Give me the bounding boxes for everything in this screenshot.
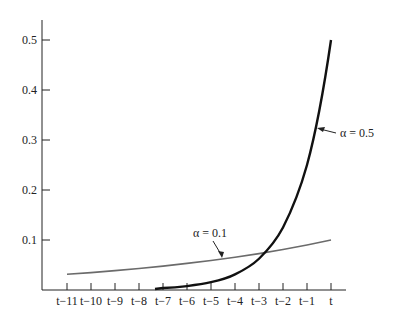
- annotation-alpha-0.1: α = 0.1: [193, 226, 227, 240]
- annotation-alpha-0.5: α = 0.5: [340, 126, 374, 140]
- y-tick-label: 0.1: [22, 233, 37, 247]
- x-tick-label: t−1: [299, 294, 315, 308]
- x-tick-label: t−11: [56, 294, 78, 308]
- y-tick-label: 0.5: [22, 33, 37, 47]
- y-ticks: [42, 40, 50, 240]
- series-alpha-0.5-line: [155, 40, 331, 289]
- arrowhead-alpha-0.1: [218, 251, 224, 258]
- x-tick-label: t: [329, 294, 333, 308]
- x-tick-label: t−3: [251, 294, 267, 308]
- y-tick-label: 0.2: [22, 183, 37, 197]
- x-tick-label: t−8: [131, 294, 147, 308]
- x-tick-label: t−7: [155, 294, 171, 308]
- y-tick-label: 0.4: [22, 83, 37, 97]
- x-tick-label: t−6: [179, 294, 195, 308]
- series-alpha-0.1-line: [67, 240, 331, 274]
- x-tick-label: t−2: [275, 294, 291, 308]
- x-tick-label: t−5: [203, 294, 219, 308]
- y-tick-labels: 0.1 0.2 0.3 0.4 0.5: [22, 33, 37, 247]
- y-tick-label: 0.3: [22, 133, 37, 147]
- x-tick-label: t−10: [80, 294, 102, 308]
- x-tick-label: t−4: [227, 294, 243, 308]
- chart: 0.1 0.2 0.3 0.4 0.5 t−11 t−10 t−9 t−8 t−…: [0, 0, 396, 318]
- x-tick-labels: t−11 t−10 t−9 t−8 t−7 t−6 t−5 t−4 t−3 t−…: [56, 294, 333, 308]
- arrowhead-alpha-0.5: [317, 127, 325, 132]
- x-tick-label: t−9: [107, 294, 123, 308]
